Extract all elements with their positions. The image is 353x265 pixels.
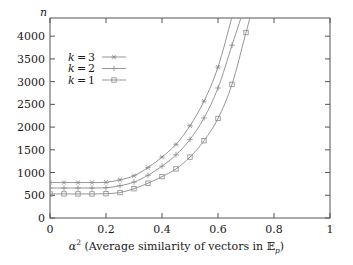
y-tick-label: 3000 [17,76,45,89]
y-tick-label: 4000 [17,30,45,43]
x-axis-label: α2 (Average similarity of vectors in 𝔼p) [0,238,353,255]
data-point-marker-star [187,124,192,128]
data-point-marker-plus [131,179,137,185]
data-point-marker-star [61,180,66,184]
y-axis-label: n [40,6,47,19]
data-point-marker-plus [117,183,123,189]
data-point-marker-star [131,174,136,178]
y-tick-label: 0 [38,212,45,225]
chart-canvas: 0500100015002000250030003500400000.20.40… [0,0,353,265]
chart-legend: k=3k=2k=1 [68,51,126,87]
data-point-marker-plus [229,42,235,48]
y-tick-label: 1500 [17,144,45,157]
series-3 [48,0,259,196]
y-tick-label: 1000 [17,167,45,180]
series-1 [47,0,244,185]
x-axis-label-set-symbol: 𝔼 [267,240,275,253]
data-point-marker-star [103,180,108,184]
x-axis-label-text: (Average similarity of vectors in [81,240,267,253]
chart-figure: 0500100015002000250030003500400000.20.40… [0,0,353,265]
chart-ticks: 0500100015002000250030003500400000.20.40… [17,18,334,236]
data-point-marker-plus [75,185,81,191]
series-line [50,0,245,183]
x-tick-label: 0.4 [153,223,171,236]
x-tick-label: 0.8 [265,223,283,236]
chart-series [47,0,258,196]
legend-label-k: k [68,74,75,87]
legend-label-equals: = [77,74,86,87]
y-tick-label: 2000 [17,121,45,134]
x-tick-label: 0.6 [209,223,227,236]
legend-label-value: 1 [88,74,95,87]
y-tick-label: 3500 [17,53,45,66]
data-point-marker-star [89,180,94,184]
data-point-marker-plus [47,185,53,191]
x-tick-label: 1 [327,223,334,236]
data-point-marker-star [215,65,220,69]
x-axis-label-close: ) [280,240,284,253]
series-line [50,7,245,188]
data-point-marker-plus [145,172,151,178]
data-point-marker-star [117,178,122,182]
data-point-marker-star [111,55,116,59]
x-tick-label: 0 [47,223,54,236]
data-point-marker-star [201,99,206,103]
data-point-marker-star [75,180,80,184]
series-2 [47,7,244,191]
data-point-marker-plus [89,185,95,191]
data-point-marker-plus [111,66,117,72]
data-point-marker-plus [201,115,207,121]
data-point-marker-plus [61,185,67,191]
data-point-marker-plus [103,185,109,191]
x-tick-label: 0.2 [97,223,115,236]
y-tick-label: 500 [24,189,45,202]
data-point-marker-plus [215,85,221,91]
y-tick-label: 2500 [17,98,45,111]
series-line [50,0,259,194]
legend-entry-3: k=1 [68,74,126,87]
